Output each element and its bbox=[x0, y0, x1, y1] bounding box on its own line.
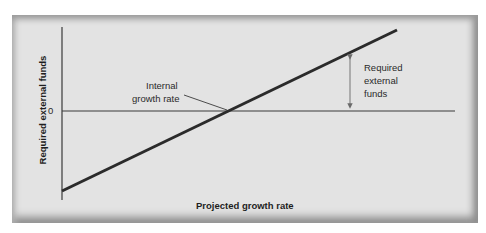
internal-growth-label-line2: growth rate bbox=[132, 92, 180, 105]
internal-growth-leader bbox=[184, 95, 227, 110]
required-funds-label-line3: funds bbox=[364, 87, 387, 100]
x-axis-label: Projected growth rate bbox=[196, 199, 294, 212]
y-axis-label: Required external funds bbox=[37, 56, 48, 165]
required-funds-label-line2: external bbox=[364, 74, 398, 87]
required-funds-label-line1: Required bbox=[364, 61, 403, 74]
y-tick-zero: 0 bbox=[48, 104, 53, 117]
internal-growth-label-line1: Internal bbox=[146, 79, 178, 92]
